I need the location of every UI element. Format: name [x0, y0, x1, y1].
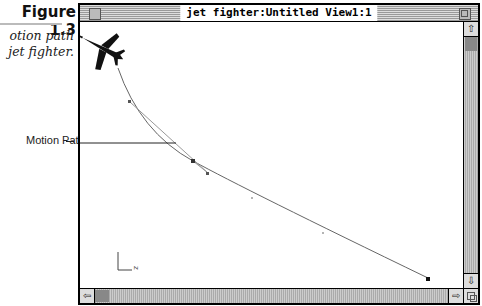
- keyframe-point-1: [191, 159, 195, 163]
- arrow-right-icon[interactable]: ⇨: [448, 289, 463, 303]
- figure-label-rule: [0, 23, 62, 25]
- callout-label: Motion Path: [26, 134, 85, 146]
- caption-line-1: otion path: [0, 28, 74, 44]
- tangent-handle-point-2: [206, 172, 209, 175]
- figure-caption: otion path jet fighter.: [0, 28, 74, 60]
- jet-nose: [80, 32, 83, 38]
- horizontal-scrollbar[interactable]: ⇦ ⇨: [80, 288, 463, 303]
- axis-gizmo: [118, 252, 132, 270]
- scene-canvas: z: [80, 22, 463, 288]
- motion-path-curve: [118, 68, 428, 278]
- path-tick-1: [251, 197, 253, 199]
- horizontal-scroll-thumb[interactable]: [95, 290, 109, 302]
- zoom-box-icon[interactable]: [459, 8, 471, 20]
- view-window: jet fighter:Untitled View1:1: [78, 3, 480, 305]
- close-box-icon[interactable]: [89, 8, 101, 20]
- tangent-handle-line-1: [130, 102, 208, 173]
- viewport[interactable]: z: [80, 22, 463, 288]
- resize-grow-icon[interactable]: [463, 288, 478, 303]
- tangent-handle-point-1: [128, 100, 131, 103]
- vertical-scrollbar[interactable]: ⇧ ⇩: [463, 22, 478, 288]
- axis-label: z: [132, 266, 140, 270]
- path-tick-2: [322, 232, 324, 234]
- tangent-handle-line-2: [193, 161, 208, 173]
- callout-dash: [66, 141, 74, 142]
- vertical-scroll-thumb[interactable]: [465, 37, 477, 51]
- arrow-down-icon[interactable]: ⇩: [464, 273, 478, 288]
- arrow-left-icon[interactable]: ⇦: [80, 289, 95, 303]
- keyframe-point-2: [426, 277, 430, 281]
- caption-line-2: jet fighter.: [0, 44, 74, 60]
- arrow-up-icon[interactable]: ⇧: [464, 22, 478, 37]
- window-title: jet fighter:Untitled View1:1: [180, 5, 377, 21]
- jet-fighter-icon: [80, 22, 133, 79]
- title-bar[interactable]: jet fighter:Untitled View1:1: [80, 5, 478, 22]
